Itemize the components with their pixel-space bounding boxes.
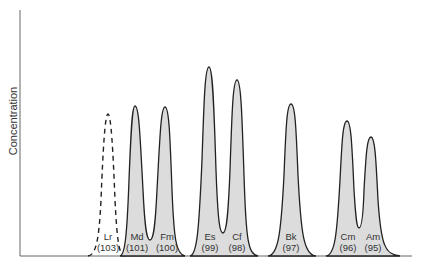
peak-label-symbol: Am	[358, 231, 388, 242]
peak-label-cf: Cf (98)	[222, 231, 252, 253]
peak-label-fm: Fm (100)	[152, 231, 182, 253]
peak-label-number: (97)	[276, 242, 306, 253]
peak-label-number: (95)	[358, 242, 388, 253]
peak-label-number: (98)	[222, 242, 252, 253]
peak-label-symbol: Bk	[276, 231, 306, 242]
peak-label-symbol: Cf	[222, 231, 252, 242]
peak-label-symbol: Md	[122, 231, 152, 242]
peak-label-number: (99)	[195, 242, 225, 253]
peak-es-cf	[190, 67, 258, 256]
y-axis-label: Concentration	[7, 76, 19, 166]
peak-label-symbol: Lr	[93, 231, 123, 242]
peak-label-lr: Lr (103)	[93, 231, 123, 253]
peak-label-am: Am (95)	[358, 231, 388, 253]
peak-label-es: Es (99)	[195, 231, 225, 253]
peak-label-bk: Bk (97)	[276, 231, 306, 253]
peak-label-number: (101)	[122, 242, 152, 253]
peak-label-md: Md (101)	[122, 231, 152, 253]
peak-label-symbol: Es	[195, 231, 225, 242]
peak-label-number: (100)	[152, 242, 182, 253]
peak-label-symbol: Fm	[152, 231, 182, 242]
peak-label-number: (103)	[93, 242, 123, 253]
